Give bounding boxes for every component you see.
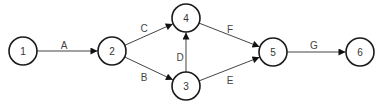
node-label: 4 (183, 13, 189, 24)
edge-b (125, 57, 173, 80)
edge-label: A (61, 40, 68, 51)
edge-label: D (176, 52, 183, 63)
node-label: 2 (109, 46, 115, 57)
edge-label: G (310, 40, 318, 51)
edge-c (125, 24, 173, 45)
edge-label: B (141, 72, 148, 83)
node-label: 3 (183, 81, 189, 92)
arrow-icon (125, 24, 173, 45)
node-label: 1 (20, 46, 26, 57)
node-label: 5 (270, 47, 276, 58)
node-2: 2 (98, 37, 126, 65)
arrow-icon (125, 57, 173, 80)
node-4: 4 (172, 4, 200, 32)
node-6: 6 (346, 38, 374, 66)
network-diagram: ACBDFEG 123456 (0, 0, 381, 110)
node-label: 6 (357, 47, 363, 58)
edge-label: E (227, 75, 234, 86)
node-1: 1 (9, 37, 37, 65)
edge-label: F (227, 24, 233, 35)
node-3: 3 (172, 72, 200, 100)
node-5: 5 (259, 38, 287, 66)
edge-label: C (140, 23, 147, 34)
